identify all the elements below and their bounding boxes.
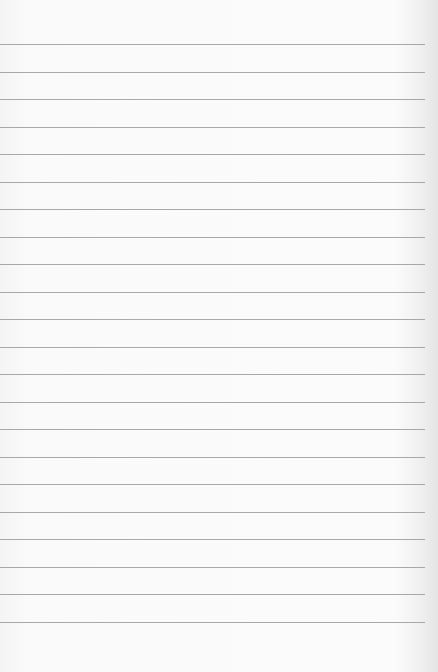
ruled-line: [0, 209, 425, 210]
ruled-line: [0, 347, 425, 348]
ruled-line: [0, 484, 425, 485]
ruled-line: [0, 402, 425, 403]
ruled-line: [0, 99, 425, 100]
ruled-line: [0, 264, 425, 265]
ruled-line: [0, 292, 425, 293]
ruled-line: [0, 237, 425, 238]
ruled-line: [0, 127, 425, 128]
ruled-line: [0, 567, 425, 568]
ruled-line: [0, 429, 425, 430]
ruled-line: [0, 72, 425, 73]
ruled-line: [0, 539, 425, 540]
ruled-line: [0, 182, 425, 183]
ruled-line: [0, 44, 425, 45]
lined-paper-sheet: [0, 0, 438, 672]
ruled-line: [0, 622, 425, 623]
ruled-line: [0, 319, 425, 320]
ruled-line: [0, 457, 425, 458]
ruled-line: [0, 374, 425, 375]
ruled-line: [0, 154, 425, 155]
ruled-line: [0, 512, 425, 513]
ruled-line: [0, 594, 425, 595]
